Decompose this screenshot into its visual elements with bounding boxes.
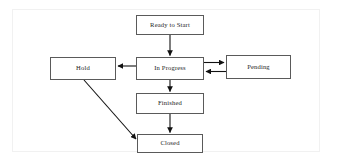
node-label: In Progress [154, 65, 186, 72]
node-label: Ready to Start [150, 22, 190, 29]
edge-hold-to-closed [84, 80, 136, 139]
node-label: Hold [76, 65, 90, 72]
node-hold[interactable]: Hold [50, 57, 116, 80]
node-in-progress[interactable]: In Progress [136, 57, 204, 80]
node-pending[interactable]: Pending [226, 55, 291, 79]
node-label: Closed [160, 140, 179, 147]
node-label: Finished [158, 100, 182, 107]
node-ready-to-start[interactable]: Ready to Start [136, 15, 204, 35]
node-label: Pending [247, 64, 270, 71]
node-finished[interactable]: Finished [136, 93, 204, 114]
node-closed[interactable]: Closed [137, 134, 203, 153]
state-diagram-canvas: Ready to Start Hold In Progress Pending … [0, 0, 337, 164]
